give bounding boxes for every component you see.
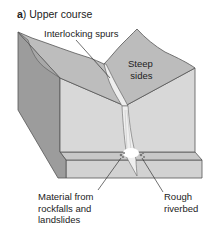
- label-steep-sides-line2: sides: [128, 70, 153, 82]
- river-splash: [123, 148, 139, 158]
- label-rough-line1: Rough: [164, 191, 198, 203]
- label-steep-sides-line1: Steep: [128, 58, 153, 70]
- label-interlocking-spurs: Interlocking spurs: [44, 28, 118, 40]
- label-material-line1: Material from: [38, 191, 93, 203]
- label-material-line3: landslides: [38, 214, 93, 226]
- label-steep-sides: Steep sides: [128, 58, 153, 81]
- label-material-line2: rockfalls and: [38, 203, 93, 215]
- label-rough-line2: riverbed: [164, 203, 198, 215]
- label-material-rockfalls: Material from rockfalls and landslides: [38, 191, 93, 226]
- label-rough-riverbed: Rough riverbed: [164, 191, 198, 214]
